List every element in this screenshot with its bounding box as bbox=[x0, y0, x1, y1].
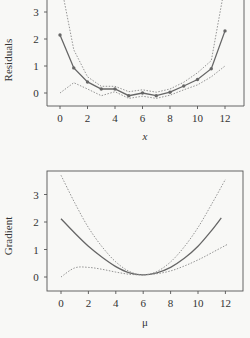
x-tick-label: 2 bbox=[85, 112, 91, 124]
gradient-plot: 0123 024681012 μ Gradient bbox=[2, 171, 243, 328]
data-point bbox=[100, 87, 103, 90]
y-tick-label: 0 bbox=[33, 271, 39, 283]
bottom-x-axis: 024681012 bbox=[58, 291, 231, 309]
top-series bbox=[58, 0, 226, 98]
y-tick-label: 3 bbox=[33, 6, 39, 18]
data-point bbox=[196, 78, 199, 81]
top-x-axis: 024681012 bbox=[57, 106, 230, 124]
y-tick-label: 3 bbox=[33, 189, 39, 201]
bottom-x-axis-title: μ bbox=[142, 316, 148, 328]
data-point bbox=[168, 90, 171, 93]
y-tick-label: 2 bbox=[33, 33, 39, 45]
residuals-plot: 0123 024681012 x Residuals bbox=[2, 0, 244, 142]
data-point bbox=[182, 84, 185, 87]
x-tick-label: 8 bbox=[168, 297, 174, 309]
top-y-axis: 0123 bbox=[33, 6, 47, 99]
x-tick-label: 8 bbox=[167, 112, 173, 124]
x-tick-label: 2 bbox=[86, 297, 92, 309]
y-tick-label: 1 bbox=[33, 60, 39, 72]
top-y-axis-title: Residuals bbox=[2, 39, 14, 82]
upper-band-line bbox=[61, 175, 225, 274]
x-tick-label: 10 bbox=[193, 297, 205, 309]
data-point bbox=[127, 94, 130, 97]
x-tick-label: 6 bbox=[140, 112, 146, 124]
top-x-axis-title: x bbox=[142, 130, 148, 142]
data-point bbox=[223, 29, 226, 32]
bottom-series bbox=[61, 175, 228, 277]
data-point bbox=[141, 91, 144, 94]
x-tick-label: 6 bbox=[140, 297, 146, 309]
x-tick-label: 4 bbox=[112, 112, 118, 124]
x-tick-label: 4 bbox=[113, 297, 119, 309]
bottom-y-axis-title: Gradient bbox=[2, 217, 14, 255]
x-tick-label: 12 bbox=[220, 112, 231, 124]
data-point bbox=[155, 94, 158, 97]
top-plot-frame bbox=[47, 0, 244, 106]
y-tick-label: 1 bbox=[33, 244, 39, 256]
data-point bbox=[113, 87, 116, 90]
figure: 0123 024681012 x Residuals 0123 02468101… bbox=[0, 0, 250, 338]
bottom-y-axis: 0123 bbox=[33, 189, 47, 284]
data-point bbox=[72, 66, 75, 69]
data-point bbox=[210, 67, 213, 70]
data-point bbox=[86, 80, 89, 83]
y-tick-label: 0 bbox=[33, 87, 39, 99]
residuals-line bbox=[60, 31, 225, 96]
y-tick-label: 2 bbox=[33, 216, 39, 228]
x-tick-label: 0 bbox=[57, 112, 63, 124]
x-tick-label: 10 bbox=[192, 112, 204, 124]
data-point bbox=[58, 33, 61, 36]
x-tick-label: 12 bbox=[220, 297, 231, 309]
lower-band-line bbox=[61, 244, 228, 277]
bottom-plot-frame bbox=[47, 171, 243, 291]
gradient-line bbox=[61, 218, 221, 275]
x-tick-label: 0 bbox=[58, 297, 64, 309]
